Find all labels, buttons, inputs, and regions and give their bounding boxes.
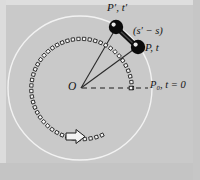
trajectory-marker [30,95,34,99]
trajectory-marker [30,78,34,82]
trajectory-marker [77,37,80,40]
trajectory-marker [126,69,130,73]
label-origin: O [68,81,76,93]
trajectory-marker [82,37,86,41]
trajectory-marker [98,41,102,45]
frame-top [0,0,200,5]
label-arc-length-difference: (s′ − s) [133,26,163,37]
trajectory-marker [130,80,134,84]
p-zero-marker [129,86,133,90]
circular-motion-figure: P′, t′ (s′ − s) P, t O P₀, t = 0 [0,0,200,180]
ball-p-prime [109,20,123,34]
ball-p [131,40,145,54]
trajectory-marker [88,38,92,42]
trajectory-marker [128,74,132,78]
frame-left [0,0,6,180]
trajectory-marker [33,67,37,71]
trajectory-marker [60,40,64,44]
trajectory-marker [65,39,69,43]
trajectory-marker [100,133,104,137]
ball-p-prime-specular-highlight [112,23,116,27]
trajectory-marker [31,100,35,104]
trajectory-marker [93,39,97,43]
label-p-zero: P₀, t = 0 [150,80,186,91]
trajectory-marker [30,84,33,87]
trajectory-marker [94,135,98,139]
ball-p-specular-highlight [134,43,138,47]
trajectory-marker [31,72,35,76]
frame-bottom [0,163,200,180]
trajectory-marker [33,105,37,109]
trajectory-marker [89,136,93,140]
trajectory-marker [30,89,34,93]
label-p-prime: P′, t′ [107,2,127,13]
trajectory-marker [60,133,64,137]
label-p: P, t [145,42,159,53]
trajectory-marker [71,38,75,42]
frame-right [193,0,200,180]
